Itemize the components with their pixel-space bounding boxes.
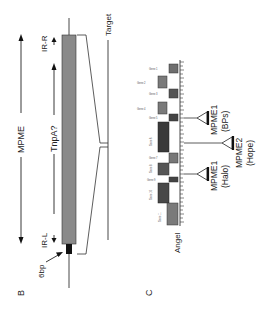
insertion-origin: (Halo) bbox=[220, 165, 230, 188]
gene-box bbox=[158, 102, 167, 114]
insertion-origin: (BPs) bbox=[220, 111, 230, 132]
angel-locus-label: Angel bbox=[173, 232, 182, 253]
gene-box bbox=[158, 76, 167, 88]
gene-label: Gene 10 bbox=[149, 189, 153, 200]
tnpa-label: TnpA? bbox=[49, 125, 59, 152]
target-site-duplication bbox=[66, 244, 72, 254]
arrow-up-icon bbox=[52, 63, 57, 70]
ir-r-label: IR-R bbox=[40, 35, 49, 52]
panel-b-label: B bbox=[16, 290, 26, 296]
arrow-down-icon bbox=[52, 238, 57, 243]
gene-box bbox=[169, 177, 178, 182]
gene-box bbox=[169, 114, 178, 121]
target-expansion: Target bbox=[77, 13, 113, 254]
triangle-insertion-icon bbox=[197, 112, 207, 124]
gene-box bbox=[158, 122, 169, 152]
insertion-origin: (Hope) bbox=[245, 140, 255, 166]
6bp-label: 6bp bbox=[37, 264, 46, 278]
panel-b: B MPME TnpA? IR-R IR-L bbox=[16, 13, 113, 296]
triangle-insertion-icon bbox=[222, 137, 232, 149]
ir-left: IR-L bbox=[40, 232, 57, 248]
gene-label: Gene 5 bbox=[149, 116, 158, 120]
panel-c-label: C bbox=[144, 289, 154, 296]
panel-c: C bbox=[137, 60, 255, 296]
gene-label: Gene 2 bbox=[137, 81, 146, 85]
gene-label: Gene 7 bbox=[149, 156, 158, 160]
gene-label: Gene 1 bbox=[149, 67, 158, 71]
arrow-up-icon bbox=[52, 37, 57, 42]
insertion-mpme1-bps: MPME1 (BPs) bbox=[184, 105, 230, 136]
ir-l-label: IR-L bbox=[40, 232, 49, 248]
figure-canvas: B MPME TnpA? IR-R IR-L bbox=[0, 0, 261, 314]
gene-label: Gene 6 bbox=[149, 137, 153, 146]
gene-box bbox=[158, 183, 169, 203]
insertion-name: MPME1 bbox=[209, 105, 219, 136]
insertion-name: MPME1 bbox=[209, 161, 219, 192]
gene-box bbox=[167, 203, 178, 225]
tnpa-orf-arrow: TnpA? bbox=[49, 63, 59, 214]
insertion-name: MPME2 bbox=[234, 138, 244, 169]
gene-map: Gene 1 Gene 2 Gene 3 Gene 4 Gene 5 Gene … bbox=[137, 64, 178, 225]
mpme-element-box bbox=[62, 35, 76, 244]
arrow-down-icon bbox=[19, 237, 24, 244]
gene-label: Gene 11 bbox=[158, 212, 162, 222]
gene-label: Gene 4 bbox=[137, 107, 146, 111]
triangle-insertion-icon bbox=[197, 168, 207, 180]
gene-box bbox=[169, 89, 178, 98]
mpme-label: MPME bbox=[16, 126, 26, 153]
dup-6bp-callout: 6bp bbox=[37, 252, 63, 278]
insertion-mpme1-halo: MPME1 (Halo) bbox=[184, 161, 230, 192]
mpme-span-arrow: MPME bbox=[16, 34, 26, 244]
gene-box bbox=[158, 163, 169, 175]
gene-box bbox=[169, 64, 178, 73]
gene-box bbox=[169, 153, 178, 163]
genome-ruler bbox=[180, 60, 184, 226]
gene-label: Gene 9 bbox=[147, 178, 156, 182]
arrow-up-icon bbox=[19, 34, 24, 41]
target-label: Target bbox=[104, 13, 113, 36]
arrow-icon bbox=[56, 252, 63, 257]
ir-right: IR-R bbox=[40, 35, 57, 52]
insertion-mpme2-hope: MPME2 (Hope) bbox=[184, 136, 255, 168]
gene-label: Gene 8 bbox=[149, 164, 153, 173]
gene-label: Gene 3 bbox=[149, 92, 158, 96]
